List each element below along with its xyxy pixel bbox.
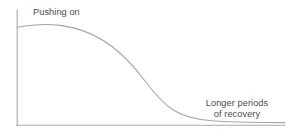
decline-curve-figure: Pushing on Longer periods of recovery [0, 0, 290, 137]
annotation-recovery-line-1: Longer periods [196, 98, 278, 109]
annotation-pushing-on: Pushing on [33, 7, 80, 18]
annotation-recovery-line-2: of recovery [196, 109, 278, 120]
annotation-longer-periods-of-recovery: Longer periods of recovery [196, 98, 278, 121]
